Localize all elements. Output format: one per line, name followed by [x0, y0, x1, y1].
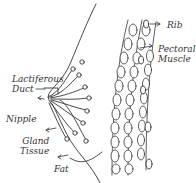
- fat-line: [70, 152, 102, 162]
- pectoral-muscle: [111, 20, 156, 175]
- nipple-label: Nipple: [6, 114, 36, 124]
- rib-label: Rib: [167, 20, 182, 30]
- lactiferous-duct-label: Lactiferous Duct: [12, 74, 64, 94]
- gland-lobules: [65, 60, 91, 143]
- pectoral-muscle-label: Pectoral Muscle: [158, 44, 196, 64]
- breast-anatomy-diagram: Lactiferous Duct Nipple Gland Tissue Fat…: [0, 0, 196, 183]
- fat-label: Fat: [54, 164, 69, 174]
- gland-tissue-label: Gland Tissue: [20, 136, 49, 156]
